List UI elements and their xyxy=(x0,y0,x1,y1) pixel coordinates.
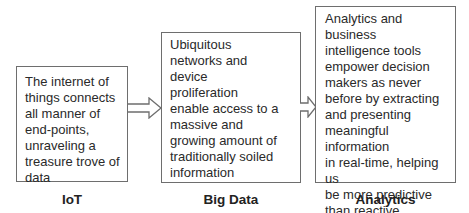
iot-line: The internet of xyxy=(25,74,123,90)
big-data-line: networks and xyxy=(170,53,296,69)
iot-line: treasure trove of xyxy=(25,154,123,170)
big-data-label: Big Data xyxy=(161,192,301,207)
analytics-description: Analytics and business intelligence tool… xyxy=(325,11,451,213)
iot-line: data xyxy=(25,170,123,186)
analytics-line: meaningful information xyxy=(325,123,451,155)
big-data-line: information xyxy=(170,165,296,181)
analytics-line: makers as never xyxy=(325,75,451,91)
big-data-line: device xyxy=(170,69,296,85)
analytics-line: and presenting xyxy=(325,107,451,123)
big-data-description: Ubiquitous networks and device prolifera… xyxy=(170,37,296,181)
big-data-line: growing amount of xyxy=(170,133,296,149)
iot-line: unraveling a xyxy=(25,138,123,154)
iot-line: end-points, xyxy=(25,122,123,138)
big-data-line: traditionally soiled xyxy=(170,149,296,165)
iot-line: things connects xyxy=(25,90,123,106)
big-data-line: Ubiquitous xyxy=(170,37,296,53)
analytics-line: Analytics and business xyxy=(325,11,451,43)
big-data-line: massive and xyxy=(170,117,296,133)
arrow-iot-to-big-data xyxy=(127,97,163,119)
analytics-label: Analytics xyxy=(315,192,456,207)
analytics-box: Analytics and business intelligence tool… xyxy=(315,6,456,183)
iot-box: The internet of things connects all mann… xyxy=(16,66,128,182)
iot-line: all manner of xyxy=(25,106,123,122)
analytics-line: in real-time, helping us xyxy=(325,155,451,187)
big-data-line: proliferation xyxy=(170,85,296,101)
iot-description: The internet of things connects all mann… xyxy=(25,74,123,186)
iot-label: IoT xyxy=(16,192,128,207)
big-data-box: Ubiquitous networks and device prolifera… xyxy=(161,32,301,183)
big-data-line: enable access to a xyxy=(170,101,296,117)
analytics-line: before by extracting xyxy=(325,91,451,107)
analytics-line: empower decision xyxy=(325,59,451,75)
analytics-line: intelligence tools xyxy=(325,43,451,59)
